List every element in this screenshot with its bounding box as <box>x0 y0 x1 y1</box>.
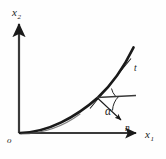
x1-axis-label-base: x <box>144 128 150 140</box>
boundary-curve <box>20 48 134 134</box>
tangent-angle-arc <box>112 89 116 97</box>
x1-axis-label-subscript: 1 <box>150 135 154 143</box>
x2-axis-label-base: x <box>11 6 17 18</box>
x1-axis-label: x1 <box>144 128 154 143</box>
horizontal-reference-line <box>97 96 136 98</box>
diagram-svg: x2 x1 o t n α <box>0 0 166 159</box>
normal-label: n <box>125 123 130 133</box>
x2-axis-label: x2 <box>11 6 21 21</box>
tangent-label: t <box>134 63 137 73</box>
tangent-line <box>90 59 131 109</box>
origin-label: o <box>7 135 12 145</box>
alpha-angle-arc <box>113 97 119 111</box>
alpha-angle-label: α <box>105 105 112 117</box>
figure-canvas: x2 x1 o t n α <box>0 0 166 159</box>
x2-axis-label-subscript: 2 <box>17 13 21 21</box>
